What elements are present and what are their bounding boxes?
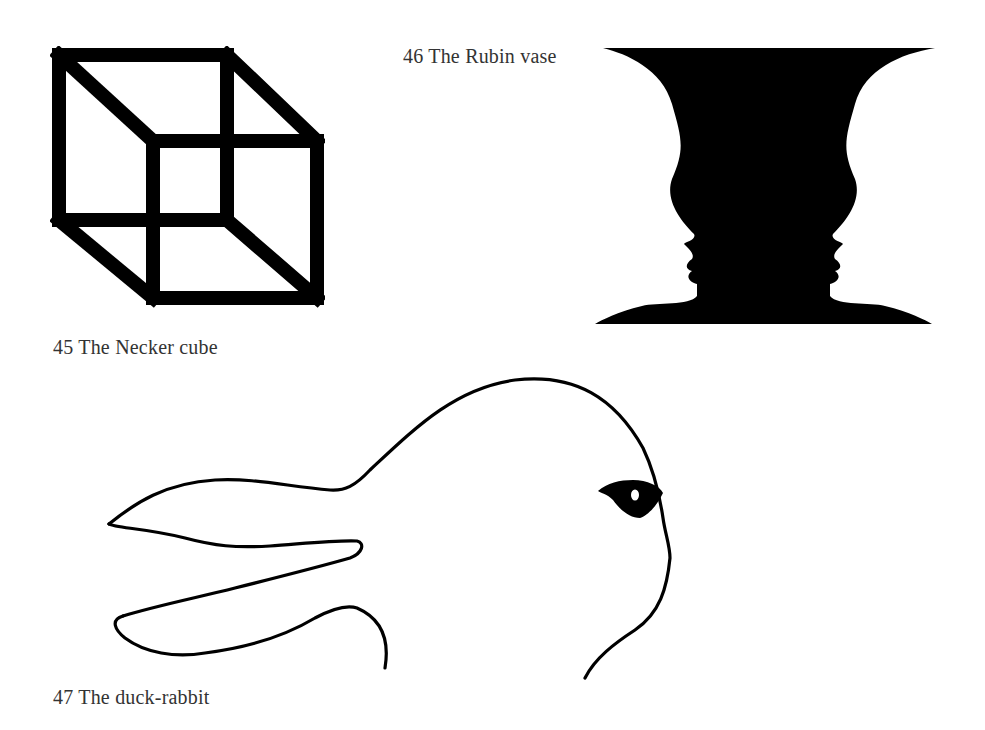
necker-cube-icon xyxy=(50,46,325,311)
duck-rabbit-icon xyxy=(95,368,855,688)
eye-icon xyxy=(598,480,663,518)
caption-necker-cube: 45 The Necker cube xyxy=(53,337,218,357)
duck-rabbit-figure xyxy=(95,368,855,688)
caption-duck-rabbit: 47 The duck-rabbit xyxy=(53,687,210,707)
necker-cube-figure xyxy=(50,46,325,311)
rubin-vase-figure xyxy=(580,44,950,326)
rubin-vase-icon xyxy=(580,44,950,326)
caption-rubin-vase: 46 The Rubin vase xyxy=(403,46,557,66)
